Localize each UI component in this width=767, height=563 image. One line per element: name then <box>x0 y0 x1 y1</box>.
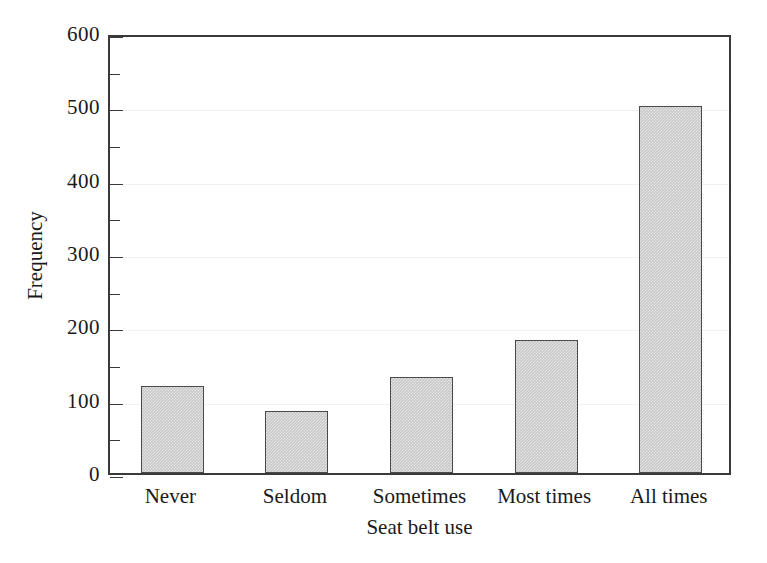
y-axis-tick-major <box>110 37 123 38</box>
bar <box>265 411 328 473</box>
plot-inner <box>110 37 729 473</box>
x-axis-title: Seat belt use <box>108 515 731 539</box>
y-axis-tick-label: 200 <box>44 317 100 338</box>
y-axis-tick-label: 300 <box>44 244 100 265</box>
gridline <box>110 330 729 331</box>
bar <box>515 340 578 473</box>
y-axis-tick-major <box>110 110 123 111</box>
y-axis-tick-major <box>110 477 123 478</box>
x-axis-tick-label: Never <box>108 484 233 508</box>
bar <box>390 377 453 473</box>
y-axis-tick-major <box>110 330 123 331</box>
bar <box>141 386 204 473</box>
y-axis-tick-minor <box>110 294 120 295</box>
y-axis-tick-label: 500 <box>44 97 100 118</box>
x-axis-tick-label: Most times <box>482 484 607 508</box>
y-axis-tick-minor <box>110 74 120 75</box>
y-axis-tick-label: 400 <box>44 171 100 192</box>
y-axis-tick-label: 100 <box>44 391 100 412</box>
y-axis-tick-minor <box>110 440 120 441</box>
y-axis-tick-major <box>110 257 123 258</box>
y-axis-tick-label: 600 <box>44 24 100 45</box>
y-axis-tick-label: 0 <box>44 464 100 485</box>
bar-chart: Frequency 0100200300400500600 NeverSeldo… <box>0 0 767 563</box>
y-axis-tick-minor <box>110 147 120 148</box>
gridline <box>110 110 729 111</box>
plot-area <box>108 35 731 475</box>
bar <box>639 106 702 473</box>
x-axis-tick-label: Sometimes <box>357 484 482 508</box>
y-axis-tick-major <box>110 184 123 185</box>
y-axis-tick-minor <box>110 220 120 221</box>
x-axis-tick-label: All times <box>606 484 731 508</box>
x-axis-tick-label: Seldom <box>233 484 358 508</box>
gridline <box>110 257 729 258</box>
gridline <box>110 184 729 185</box>
y-axis-tick-major <box>110 404 123 405</box>
y-axis-tick-minor <box>110 367 120 368</box>
